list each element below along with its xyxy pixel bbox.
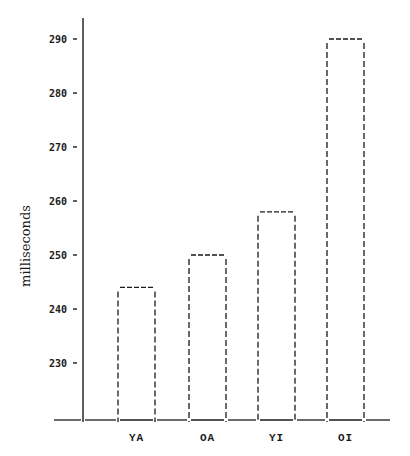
x-category-label: YI <box>269 432 284 444</box>
y-tick-label: 230 <box>49 358 67 369</box>
y-axis: 230240250260270280290 <box>49 18 83 422</box>
bar-oi <box>327 39 364 422</box>
y-tick-label: 240 <box>49 304 67 315</box>
bar-yi <box>258 212 295 422</box>
y-tick-label: 270 <box>49 142 67 153</box>
x-category-label: OI <box>338 432 353 444</box>
y-tick-label: 290 <box>49 34 67 45</box>
y-tick-label: 260 <box>49 196 67 207</box>
y-tick-label: 280 <box>49 88 67 99</box>
y-axis-title: milliseconds <box>18 205 33 287</box>
bar-ya <box>118 287 155 422</box>
bar-oa <box>189 255 226 422</box>
y-tick-label: 250 <box>49 250 67 261</box>
bars <box>118 39 364 422</box>
x-axis: YAOAYIOI <box>54 420 390 444</box>
x-category-label: YA <box>129 432 144 444</box>
bar-chart: 230240250260270280290 YAOAYIOI milliseco… <box>0 0 410 456</box>
x-category-label: OA <box>200 432 215 444</box>
